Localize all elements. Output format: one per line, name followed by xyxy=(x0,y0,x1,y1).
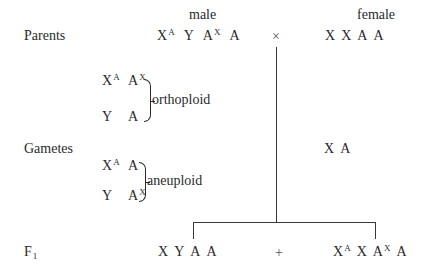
f1-offspring-left: XYAA xyxy=(158,245,217,259)
offspring-horizontal-line xyxy=(193,222,376,223)
orthoploid-gamete-1: XAAX xyxy=(102,74,146,88)
orthoploid-gamete-2: YA xyxy=(102,110,138,124)
f1-label: F1 xyxy=(24,245,37,259)
plus-symbol: + xyxy=(275,246,283,260)
aneuploid-brace xyxy=(139,162,146,202)
f1-offspring-right: XAXAXA xyxy=(333,245,407,259)
gametes-label: Gametes xyxy=(24,142,73,156)
chromosome: XA xyxy=(157,29,175,43)
aneuploid-gamete-1: XAA xyxy=(102,159,138,173)
male-parent-genotype: XAYAXA xyxy=(157,29,240,43)
parents-label: Parents xyxy=(24,29,65,43)
cross-symbol: × xyxy=(272,30,280,44)
cross-vertical-line xyxy=(276,47,277,222)
female-parent-genotype: XXAA xyxy=(325,29,384,43)
chromosome: AX xyxy=(203,29,221,43)
orthoploid-brace xyxy=(144,79,151,122)
female-gamete: XA xyxy=(324,142,350,156)
orthoploid-label: orthoploid xyxy=(152,93,210,107)
chromosome: Y xyxy=(184,29,194,43)
chromosome: A xyxy=(229,29,239,43)
aneuploid-label: aneuploid xyxy=(147,174,202,188)
f1-label-subscript: 1 xyxy=(33,251,38,261)
male-header: male xyxy=(189,8,216,22)
offspring-right-branch xyxy=(375,222,376,239)
female-header: female xyxy=(357,8,395,22)
f1-label-main: F xyxy=(24,244,32,259)
offspring-left-branch xyxy=(193,222,194,239)
